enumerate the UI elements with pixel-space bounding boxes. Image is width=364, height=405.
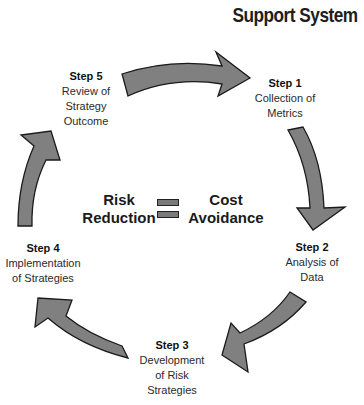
step-1-label: Step 1 — [255, 76, 316, 91]
step-5-label: Step 5 — [62, 69, 110, 84]
risk-reduction-line-2: Reduction — [82, 209, 155, 227]
step-2-line-2: Data — [285, 270, 338, 285]
cost-avoidance-line-1: Cost — [188, 191, 263, 209]
risk-reduction-line-1: Risk — [82, 191, 155, 209]
step-4-line-2: of Strategies — [5, 271, 80, 286]
step-2-line-1: Analysis of — [285, 255, 338, 270]
step-4: Step 4 Implementation of Strategies — [5, 241, 80, 286]
step-5-line-1: Review of — [62, 84, 110, 99]
step-5-line-2: Strategy — [62, 99, 110, 114]
step-3-label: Step 3 — [140, 338, 205, 353]
step-1: Step 1 Collection of Metrics — [255, 76, 316, 121]
step-3: Step 3 Development of Risk Strategies — [140, 338, 205, 398]
arrow-step2-to-step3 — [222, 292, 306, 372]
step-4-line-1: Implementation — [5, 256, 80, 271]
step-3-line-2: of Risk — [140, 368, 205, 383]
step-1-line-1: Collection of — [255, 91, 316, 106]
equals-bar-top — [157, 199, 179, 206]
step-4-label: Step 4 — [5, 241, 80, 256]
arrow-step3-to-step4 — [35, 298, 128, 358]
equals-bar-bottom — [157, 211, 179, 218]
step-5: Step 5 Review of Strategy Outcome — [62, 69, 110, 129]
risk-reduction-label: Risk Reduction — [82, 191, 155, 227]
step-3-line-3: Strategies — [140, 383, 205, 398]
step-5-line-3: Outcome — [62, 114, 110, 129]
step-2: Step 2 Analysis of Data — [285, 240, 338, 285]
arrow-step5-to-step1 — [122, 52, 250, 96]
step-1-line-2: Metrics — [255, 106, 316, 121]
arrow-step4-to-step5 — [18, 131, 60, 226]
cost-avoidance-line-2: Avoidance — [188, 209, 263, 227]
arrow-step1-to-step2 — [288, 127, 345, 230]
step-3-line-1: Development — [140, 353, 205, 368]
step-2-label: Step 2 — [285, 240, 338, 255]
cost-avoidance-label: Cost Avoidance — [188, 191, 263, 227]
